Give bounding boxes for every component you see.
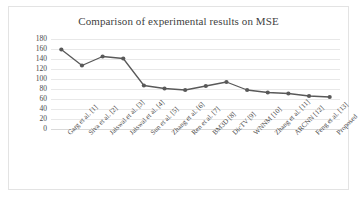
x-tick-label-8: DicTV [9] — [231, 131, 237, 137]
data-point-3 — [121, 56, 125, 60]
x-tick-label-5: Zhang et al. [6] — [170, 131, 176, 137]
data-point-9 — [245, 88, 249, 92]
data-point-8 — [224, 80, 228, 84]
x-tick-label-9: WNNM [10] — [252, 131, 258, 137]
chart-frame: Comparison of experimental results on MS… — [8, 6, 349, 190]
data-point-7 — [204, 84, 208, 88]
y-tick-label-80: 80 — [17, 85, 47, 93]
x-tick-label-0: Garg et al. [1] — [66, 131, 72, 137]
chart-title: Comparison of experimental results on MS… — [9, 15, 348, 27]
x-tick-label-7: BM3D [8] — [211, 131, 217, 137]
data-point-2 — [101, 54, 105, 58]
x-tick-label-6: Ren et al. [7] — [190, 131, 196, 137]
y-tick-label-120: 120 — [17, 65, 47, 73]
x-tick-label-12: Feng et al. [13] — [314, 131, 320, 137]
y-tick-label-40: 40 — [17, 105, 47, 113]
x-tick-label-13: Proposed — [335, 131, 341, 137]
x-axis-tick-labels: Garg et al. [1]Siva et al. [2]Jaiswal et… — [51, 131, 340, 193]
x-tick-label-3: Jaiswal et al. [4] — [128, 131, 134, 137]
data-point-6 — [183, 88, 187, 92]
y-tick-label-100: 100 — [17, 75, 47, 83]
data-point-4 — [142, 83, 146, 87]
data-point-13 — [328, 95, 332, 99]
x-tick-label-2: Jaiswal et al. [3] — [108, 131, 114, 137]
y-tick-label-0: 0 — [17, 125, 47, 133]
y-tick-label-180: 180 — [17, 35, 47, 43]
data-point-1 — [80, 63, 84, 67]
y-tick-label-20: 20 — [17, 115, 47, 123]
x-tick-label-11: ARCNN [12] — [293, 131, 299, 137]
data-point-11 — [286, 91, 290, 95]
y-tick-label-60: 60 — [17, 95, 47, 103]
data-point-5 — [162, 86, 166, 90]
data-point-10 — [266, 90, 270, 94]
data-point-0 — [59, 47, 63, 51]
y-tick-label-160: 160 — [17, 45, 47, 53]
chart-screenshot: Comparison of experimental results on MS… — [0, 0, 359, 199]
y-axis-tick-labels: 020406080100120140160180 — [17, 39, 47, 129]
data-point-12 — [307, 94, 311, 98]
x-tick-label-10: Zhang et al. [11] — [273, 131, 279, 137]
x-tick-label-1: Siva et al. [2] — [87, 131, 93, 137]
x-tick-label-4: Sun et al. [5] — [149, 131, 155, 137]
y-tick-label-140: 140 — [17, 55, 47, 63]
